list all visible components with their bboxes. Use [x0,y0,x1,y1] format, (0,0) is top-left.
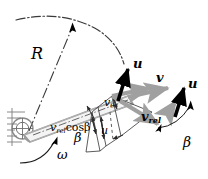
label-u-tip: u [133,57,142,70]
label-v-theta: vθ [104,97,114,110]
label-vrel-cos-beta: vrelcosβ [50,122,90,135]
label-u-right: u [188,77,197,90]
v-rel-symbol: v [141,109,149,124]
v-theta-subscript: θ [110,102,114,110]
vrel-subscript: rel [56,127,65,135]
label-omega: ω [57,148,68,161]
omega-arrow [20,137,58,164]
label-u-mid: u [101,125,108,136]
label-v: v [156,71,164,84]
beta-arc-right [158,106,190,128]
label-beta-right: β [183,135,191,149]
v-rel-subscript: rel [149,115,161,125]
velocity-triangle-figure: R ω u v u vrel vθ u vrelcosβ β β [0,0,208,179]
label-v-rel-right: vrel [141,110,161,124]
label-radius: R [31,46,43,62]
diagram-canvas [0,0,208,179]
vector-u-right-gray [169,101,176,111]
label-beta-left: β [74,131,82,144]
radius-line [29,23,76,132]
